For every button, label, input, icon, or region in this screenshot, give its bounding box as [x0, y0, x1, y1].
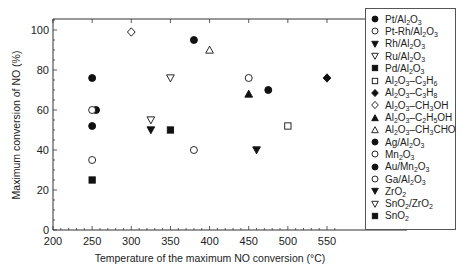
- legend-label: Al2O3–C2H5OH: [385, 112, 452, 123]
- legend-item: Al2O3–CH3CHO: [370, 124, 455, 136]
- legend-label: SnO2/ZrO2: [385, 198, 433, 209]
- triangle-down-marker-icon: [372, 53, 379, 59]
- triangle-down-marker-icon: [372, 201, 379, 207]
- data-point: [89, 177, 95, 183]
- data-point: [190, 37, 197, 44]
- data-point: [147, 127, 155, 134]
- square-marker-icon: [372, 213, 377, 218]
- x-tick-label: 200: [44, 235, 62, 247]
- legend-item: Ru/Al2O3: [370, 50, 455, 62]
- legend-item: Ag/Al2O3: [370, 136, 455, 148]
- triangle-up-legend-icon: [370, 125, 380, 135]
- square-legend-icon: [370, 63, 380, 73]
- legend-item: SnO2: [370, 210, 455, 222]
- data-point: [89, 75, 96, 82]
- axis-lines: [53, 19, 407, 230]
- triangle-down-marker-icon: [372, 41, 379, 47]
- triangle-down-legend-icon: [370, 186, 380, 196]
- y-tick-label: 60: [37, 104, 49, 116]
- circle-marker-icon: [372, 16, 378, 22]
- legend-label: Al2O3–C3H8: [385, 87, 437, 98]
- legend-item: ZrO2: [370, 185, 455, 197]
- x-axis-title: Temperature of the maximum NO conversion…: [95, 252, 326, 264]
- legend-label: SnO2: [385, 210, 409, 221]
- legend-label: ZrO2: [385, 186, 406, 197]
- circle-marker-icon: [372, 139, 378, 145]
- legend-item: Ga/Al2O3: [370, 173, 455, 185]
- circle-marker-icon: [372, 176, 378, 182]
- legend-label: Pd/Al2O3: [385, 63, 425, 74]
- legend-label: Al2O3–C3H6: [385, 75, 437, 86]
- plot-axes: 200250300350400450500550020406080100: [31, 19, 407, 247]
- y-axis-title: Maximum conversion of NO (%): [10, 51, 22, 200]
- y-tick-label: 80: [37, 64, 49, 76]
- data-point: [147, 117, 155, 124]
- x-tick-label: 300: [122, 235, 140, 247]
- legend-label: Ga/Al2O3: [385, 174, 426, 185]
- circle-legend-icon: [370, 26, 380, 36]
- legend-label: Al2O3–CH3OH: [385, 100, 448, 111]
- data-point: [265, 87, 272, 94]
- triangle-up-marker-icon: [372, 114, 379, 120]
- legend-item: Au/Mn2O3: [370, 161, 455, 173]
- circle-legend-icon: [370, 162, 380, 172]
- data-point: [167, 127, 173, 133]
- legend-item: Rh/Al2O3: [370, 38, 455, 50]
- legend-label: Al2O3–CH3CHO: [385, 124, 456, 135]
- x-tick-label: 500: [279, 235, 297, 247]
- legend-label: Pt/Al2O3: [385, 14, 422, 25]
- legend-label: Ag/Al2O3: [385, 137, 425, 148]
- square-marker-icon: [372, 78, 377, 83]
- data-point: [245, 75, 252, 82]
- x-tick-label: 550: [318, 235, 336, 247]
- square-legend-icon: [370, 76, 380, 86]
- y-tick-label: 20: [37, 184, 49, 196]
- x-tick-label: 450: [240, 235, 258, 247]
- legend-item: Al2O3–C3H8: [370, 87, 455, 99]
- x-tick-label: 400: [200, 235, 218, 247]
- legend-item: Mn2O3: [370, 148, 455, 160]
- diamond-marker-icon: [372, 102, 379, 109]
- y-tick-label: 0: [43, 224, 49, 236]
- triangle-up-legend-icon: [370, 113, 380, 123]
- data-point: [89, 157, 96, 164]
- triangle-down-legend-icon: [370, 199, 380, 209]
- legend-item: Al2O3–CH3OH: [370, 99, 455, 111]
- data-points: [89, 28, 331, 183]
- legend-item: Al2O3–C3H6: [370, 74, 455, 86]
- diamond-marker-icon: [372, 89, 379, 96]
- data-point: [253, 147, 261, 154]
- circle-marker-icon: [372, 28, 378, 34]
- triangle-down-legend-icon: [370, 39, 380, 49]
- legend-item: Pt-Rh/Al2O3: [370, 25, 455, 37]
- data-point: [206, 46, 214, 53]
- x-tick-label: 350: [161, 235, 179, 247]
- data-point: [190, 147, 197, 154]
- circle-marker-icon: [372, 151, 378, 157]
- data-point: [89, 123, 96, 130]
- data-point: [127, 28, 135, 36]
- data-point: [323, 74, 331, 82]
- diamond-legend-icon: [370, 88, 380, 98]
- legend-label: Au/Mn2O3: [385, 161, 430, 172]
- legend-label: Rh/Al2O3: [385, 38, 425, 49]
- legend-item: Al2O3–C2H5OH: [370, 111, 455, 123]
- data-point: [167, 75, 175, 82]
- diamond-legend-icon: [370, 100, 380, 110]
- data-point: [89, 107, 96, 114]
- circle-marker-icon: [372, 164, 378, 170]
- y-tick-label: 100: [31, 24, 49, 36]
- legend-label: Ru/Al2O3: [385, 51, 425, 62]
- legend-label: Mn2O3: [385, 149, 415, 160]
- circle-legend-icon: [370, 149, 380, 159]
- circle-legend-icon: [370, 137, 380, 147]
- triangle-down-marker-icon: [372, 189, 379, 195]
- legend-item: Pd/Al2O3: [370, 62, 455, 74]
- legend-item: Pt/Al2O3: [370, 13, 455, 25]
- triangle-up-marker-icon: [372, 127, 379, 133]
- data-point: [285, 123, 291, 129]
- y-tick-label: 40: [37, 144, 49, 156]
- legend: Pt/Al2O3Pt-Rh/Al2O3Rh/Al2O3Ru/Al2O3Pd/Al…: [365, 8, 456, 230]
- square-legend-icon: [370, 211, 380, 221]
- circle-legend-icon: [370, 14, 380, 24]
